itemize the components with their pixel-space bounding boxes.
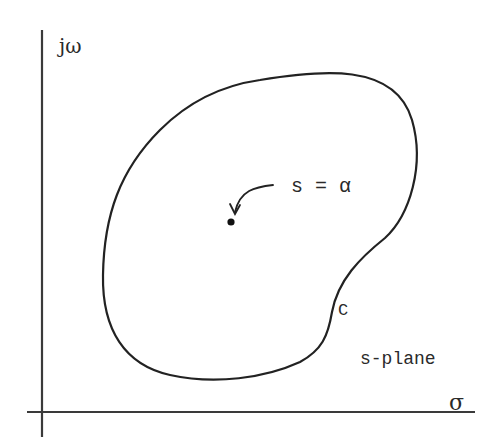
contour-label: C xyxy=(338,301,348,320)
point-alpha-dot xyxy=(227,218,234,225)
pointer-arrow-icon xyxy=(235,185,273,212)
contour-c xyxy=(103,73,417,380)
point-label: s = α xyxy=(291,175,351,198)
plane-label: s-plane xyxy=(360,349,436,369)
imaginary-axis-label: jω xyxy=(57,34,82,58)
s-plane-diagram: jω σ C s = α s-plane xyxy=(0,0,500,446)
real-axis-label: σ xyxy=(449,390,464,415)
